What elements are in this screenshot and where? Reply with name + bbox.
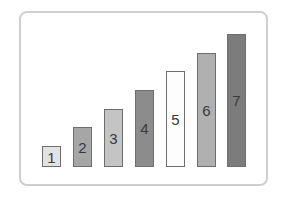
- bar-4: 4: [135, 90, 154, 167]
- bar-5: 5: [166, 71, 185, 167]
- bar-2: 2: [73, 127, 92, 167]
- bar-3: 3: [104, 109, 123, 167]
- bar-1: 1: [42, 146, 61, 167]
- bar-6: 6: [197, 53, 216, 167]
- bar-7: 7: [227, 34, 246, 167]
